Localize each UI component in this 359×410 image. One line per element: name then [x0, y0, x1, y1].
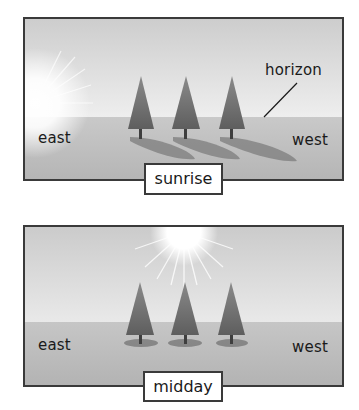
- west-label: west: [292, 338, 328, 356]
- east-label: east: [38, 336, 71, 354]
- sunrise-scene: [25, 19, 344, 181]
- midday-scene: [25, 227, 344, 387]
- midday-caption: midday: [143, 371, 223, 402]
- midday-panel: east west: [23, 225, 344, 387]
- west-label: west: [292, 131, 328, 149]
- sunrise-caption: sunrise: [144, 163, 223, 195]
- east-label: east: [38, 129, 71, 147]
- horizon-label: horizon: [265, 61, 322, 79]
- sunrise-panel: horizon east west: [23, 17, 344, 181]
